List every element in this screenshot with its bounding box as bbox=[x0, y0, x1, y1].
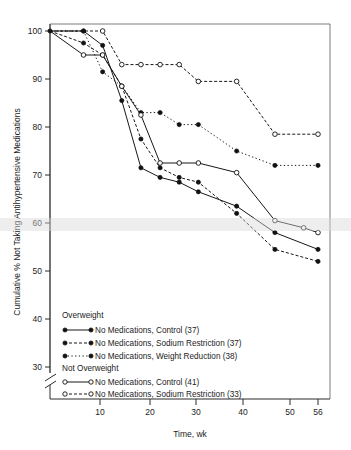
x-tick-label: 30 bbox=[191, 407, 201, 417]
legend-label: No Medications, Control (41) bbox=[95, 378, 199, 387]
data-point bbox=[100, 53, 105, 58]
series-line bbox=[50, 31, 318, 249]
data-point bbox=[196, 161, 201, 166]
y-tick-label: 80 bbox=[33, 122, 43, 132]
y-tick-label: 50 bbox=[33, 266, 43, 276]
data-point bbox=[316, 132, 321, 137]
y-axis bbox=[45, 24, 56, 399]
data-point bbox=[234, 170, 239, 175]
legend-item-overweight-control[interactable]: No Medications, Control (37) bbox=[63, 326, 200, 335]
series-line bbox=[50, 31, 318, 165]
data-point bbox=[196, 123, 200, 127]
data-point bbox=[100, 29, 105, 34]
chart-legend: Overweight No Medications, Control (37) … bbox=[62, 311, 242, 399]
legend-label: No Medications, Sodium Restriction (33) bbox=[95, 390, 242, 399]
data-point bbox=[196, 190, 200, 194]
legend-label: No Medications, Sodium Restriction (37) bbox=[95, 339, 242, 348]
data-point bbox=[158, 175, 162, 179]
data-point bbox=[235, 211, 239, 215]
x-tick-label: 40 bbox=[238, 407, 248, 417]
data-point bbox=[196, 180, 200, 184]
data-point bbox=[101, 70, 105, 74]
x-axis-title: Time, wk bbox=[173, 429, 207, 439]
legend-item-overweight-sodium[interactable]: No Medications, Sodium Restriction (37) bbox=[63, 339, 242, 348]
data-point bbox=[273, 231, 277, 235]
legend-group-overweight: Overweight bbox=[62, 311, 104, 320]
chart-svg: 100 90 80 70 60 50 40 30 10 20 30 40 50 … bbox=[0, 0, 351, 450]
y-tick-label: 70 bbox=[33, 170, 43, 180]
y-tick-label: 100 bbox=[28, 26, 42, 36]
data-point bbox=[196, 79, 201, 84]
scan-artifact-band bbox=[0, 218, 351, 231]
data-point bbox=[316, 259, 320, 263]
y-tick-marks bbox=[45, 31, 50, 367]
data-point bbox=[273, 247, 277, 251]
data-point bbox=[273, 132, 278, 137]
data-point bbox=[139, 166, 143, 170]
data-point bbox=[139, 137, 143, 141]
series-line bbox=[50, 31, 318, 233]
y-tick-labels: 100 90 80 70 60 50 40 30 bbox=[28, 26, 42, 372]
x-tick-label: 10 bbox=[95, 407, 105, 417]
x-tick-label: 20 bbox=[145, 407, 155, 417]
chart-figure: 100 90 80 70 60 50 40 30 10 20 30 40 50 … bbox=[0, 0, 351, 450]
legend-label: No Medications, Weight Reduction (38) bbox=[95, 352, 238, 361]
legend-group-not-overweight: Not Overweight bbox=[62, 364, 119, 373]
data-point bbox=[158, 166, 162, 170]
data-point bbox=[177, 180, 181, 184]
data-point bbox=[119, 62, 124, 67]
data-point bbox=[234, 79, 239, 84]
legend-item-overweight-weight[interactable]: No Medications, Weight Reduction (38) bbox=[63, 352, 238, 361]
y-tick-label: 40 bbox=[33, 314, 43, 324]
data-point-origin bbox=[48, 29, 52, 33]
data-point bbox=[177, 161, 182, 166]
data-point bbox=[81, 41, 85, 45]
series-3 bbox=[50, 29, 320, 168]
data-point bbox=[177, 175, 181, 179]
data-point bbox=[158, 161, 163, 166]
data-point bbox=[235, 149, 239, 153]
x-tick-marks bbox=[100, 399, 318, 405]
x-tick-label: 50 bbox=[285, 407, 295, 417]
data-point bbox=[316, 163, 320, 167]
legend-item-notoverweight-control[interactable]: No Medications, Control (41) bbox=[63, 378, 200, 387]
data-point bbox=[81, 53, 86, 58]
legend-item-notoverweight-sodium[interactable]: No Medications, Sodium Restriction (33) bbox=[63, 390, 242, 399]
data-point bbox=[177, 62, 182, 67]
data-point bbox=[158, 111, 162, 115]
data-point bbox=[273, 163, 277, 167]
data-point bbox=[177, 123, 181, 127]
data-point bbox=[235, 204, 239, 208]
y-tick-label: 90 bbox=[33, 74, 43, 84]
data-point bbox=[139, 113, 144, 118]
y-tick-label: 30 bbox=[33, 362, 43, 372]
data-point bbox=[316, 247, 320, 251]
data-point bbox=[120, 99, 124, 103]
x-tick-label: 56 bbox=[313, 407, 323, 417]
data-point bbox=[139, 62, 144, 67]
x-tick-labels: 10 20 30 40 50 56 bbox=[95, 407, 323, 417]
data-point bbox=[119, 84, 124, 89]
series-line bbox=[50, 31, 318, 134]
data-point bbox=[158, 62, 163, 67]
y-axis-title: Cumulative % Not Taking Antihypertensive… bbox=[12, 108, 22, 315]
legend-label: No Medications, Control (37) bbox=[95, 326, 199, 335]
series-4 bbox=[50, 31, 320, 235]
data-point bbox=[101, 43, 105, 47]
